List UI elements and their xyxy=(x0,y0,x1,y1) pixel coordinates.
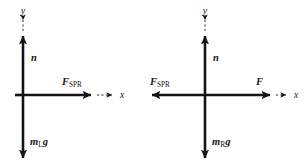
spring-force-subscript-left: SPR xyxy=(69,81,82,89)
weight-force-label-right: mRg xyxy=(212,136,230,149)
weight-mass-symbol-right: m xyxy=(212,136,220,147)
weight-gravity-symbol-right: g xyxy=(224,136,230,147)
normal-force-label-left: n xyxy=(31,52,37,63)
weight-gravity-symbol-left: g xyxy=(42,136,48,147)
applied-force-label-right: F xyxy=(255,76,263,87)
x-axis-label-left: x xyxy=(119,90,125,100)
weight-mass-symbol-left: m xyxy=(30,136,38,147)
x-axis-label-right: x xyxy=(293,90,299,100)
svg-text:mRg: mRg xyxy=(212,136,230,149)
svg-text:FSPR: FSPR xyxy=(61,76,82,89)
spring-force-subscript-right: SPR xyxy=(157,81,170,89)
svg-text:mLg: mLg xyxy=(30,136,48,149)
normal-force-label-right: n xyxy=(213,52,219,63)
spring-force-symbol-right: F xyxy=(149,76,157,87)
spring-force-label-left: FSPR xyxy=(61,76,82,89)
weight-force-label-left: mLg xyxy=(30,136,48,149)
y-axis-label-right: y xyxy=(202,5,208,16)
y-axis-label-left: y xyxy=(20,5,26,16)
spring-force-symbol-left: F xyxy=(61,76,69,87)
free-body-diagram-left: y n mLg FSPR x xyxy=(15,5,125,158)
spring-force-label-right: FSPR xyxy=(149,76,170,89)
svg-text:FSPR: FSPR xyxy=(149,76,170,89)
free-body-diagram-right: y n mRg FSPR F xyxy=(149,5,299,158)
free-body-diagram-figure: y n mLg FSPR x xyxy=(0,0,305,166)
figure-root: y n mLg FSPR x xyxy=(0,0,305,166)
